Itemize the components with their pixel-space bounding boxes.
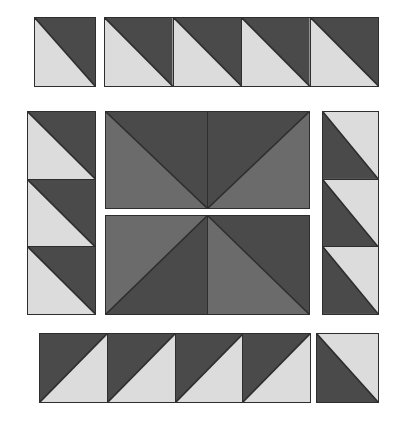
center-top-pair — [105, 111, 310, 209]
tile-center-bl — [106, 216, 207, 314]
tile-bottom-strip-1-shape — [40, 334, 107, 402]
tile-bottom-strip-1 — [40, 334, 107, 402]
top-left-single — [34, 17, 96, 87]
tile-bottom-strip-4-shape — [243, 334, 310, 402]
tile-bottom-corner-1-shape — [317, 334, 378, 402]
center-bottom-pair — [105, 215, 310, 315]
tile-left-col-1-shape — [28, 112, 95, 179]
tile-bottom-strip-3-shape — [176, 334, 243, 402]
tile-center-br — [207, 216, 309, 314]
tile-left-col-2 — [28, 179, 95, 247]
tile-top-strip-1-shape — [105, 18, 173, 86]
tile-top-corner-1 — [35, 18, 95, 86]
tile-center-bl-shape — [106, 216, 207, 314]
tile-center-br-shape — [208, 216, 309, 314]
tile-right-col-3-shape — [323, 247, 378, 314]
tile-bottom-strip-2-shape — [108, 334, 175, 402]
tile-bottom-strip-3 — [175, 334, 243, 402]
tile-bottom-strip-2 — [107, 334, 175, 402]
right-column — [322, 111, 379, 315]
tile-center-tl — [106, 112, 207, 208]
tile-right-col-1-shape — [323, 112, 378, 179]
tile-top-corner-1-shape — [35, 18, 95, 86]
tile-top-strip-2 — [173, 18, 242, 86]
tile-top-strip-4-shape — [311, 18, 379, 86]
tile-right-col-2-shape — [323, 180, 378, 247]
tile-bottom-strip-4 — [242, 334, 310, 402]
tile-top-strip-3-shape — [242, 18, 310, 86]
top-strip — [104, 17, 379, 87]
tile-left-col-2-shape — [28, 180, 95, 247]
tile-right-col-1 — [323, 112, 378, 179]
tile-left-col-3 — [28, 246, 95, 314]
tile-top-strip-1 — [105, 18, 173, 86]
tile-right-col-2 — [323, 179, 378, 247]
tile-top-strip-2-shape — [174, 18, 242, 86]
tile-left-col-3-shape — [28, 247, 95, 314]
tile-center-tl-shape — [106, 112, 207, 208]
tile-top-strip-4 — [310, 18, 379, 86]
tile-top-strip-3 — [241, 18, 310, 86]
left-column — [27, 111, 96, 315]
tile-center-tr-shape — [208, 112, 309, 208]
bottom-strip — [39, 333, 311, 403]
tile-bottom-corner-1 — [317, 334, 378, 402]
tile-right-col-3 — [323, 246, 378, 314]
bottom-right-single — [316, 333, 379, 403]
tile-left-col-1 — [28, 112, 95, 179]
quilt-diagram-canvas — [0, 0, 405, 421]
tile-center-tr — [207, 112, 309, 208]
